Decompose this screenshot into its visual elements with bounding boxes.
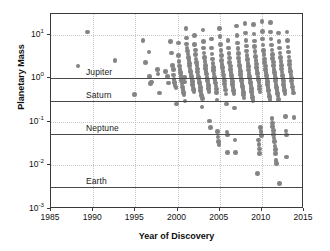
x-axis-tick-label: 2000: [167, 212, 186, 222]
reference-line-label-jupiter: Jupiter: [86, 67, 112, 77]
data-point: [269, 37, 274, 42]
y-axis-tick-label: 10-3: [10, 203, 44, 213]
data-point: [163, 69, 168, 74]
reference-line-neptune: [51, 134, 302, 135]
data-point: [85, 30, 90, 35]
data-point: [143, 60, 148, 65]
y-axis-tick: [47, 121, 50, 122]
x-axis-tick-label: 2005: [209, 212, 228, 222]
data-point: [235, 41, 240, 46]
data-point: [157, 91, 162, 96]
data-point: [219, 48, 224, 53]
data-point: [233, 138, 238, 143]
data-point: [260, 29, 265, 34]
data-point: [283, 114, 288, 119]
data-point: [274, 161, 279, 166]
data-point: [243, 21, 248, 26]
data-point: [147, 50, 152, 55]
y-axis-tick-label: 10-2: [10, 159, 44, 169]
data-point: [286, 50, 291, 55]
data-point: [261, 43, 266, 48]
data-point: [217, 26, 222, 31]
data-point: [285, 30, 290, 35]
data-point: [292, 115, 297, 120]
reference-line-jupiter: [51, 78, 302, 79]
data-point: [174, 102, 179, 107]
data-point: [209, 46, 214, 51]
data-point: [226, 46, 231, 51]
x-axis-tick-label: 1990: [83, 212, 102, 222]
data-point: [168, 39, 173, 44]
data-point: [201, 39, 206, 44]
data-point: [218, 42, 223, 47]
x-axis-tick: [134, 208, 135, 211]
x-axis-tick: [92, 208, 93, 211]
x-axis-tick: [50, 208, 51, 211]
data-point: [236, 46, 241, 51]
data-point: [251, 22, 256, 27]
y-axis-tick: [47, 77, 50, 78]
data-point: [283, 91, 288, 96]
data-point: [255, 171, 260, 176]
gridline-horizontal: [51, 165, 302, 166]
data-point: [260, 19, 265, 24]
data-point: [235, 33, 240, 38]
data-point: [244, 44, 249, 49]
gridline-vertical: [135, 14, 136, 207]
data-point: [209, 37, 214, 42]
data-point: [217, 142, 222, 147]
x-axis-tick-label: 1985: [41, 212, 60, 222]
data-point: [273, 151, 278, 156]
data-point: [226, 38, 231, 43]
data-point: [169, 51, 174, 56]
reference-line-earth: [51, 187, 302, 188]
data-point: [192, 89, 197, 94]
data-point: [182, 92, 187, 97]
data-point: [224, 102, 229, 107]
data-point: [285, 38, 290, 43]
data-point: [166, 81, 171, 86]
x-axis-tick-label: 1995: [125, 212, 144, 222]
data-point: [207, 119, 212, 124]
reference-line-label-earth: Earth: [86, 176, 107, 186]
x-axis-tick: [219, 208, 220, 211]
data-point: [207, 89, 212, 94]
data-point: [184, 36, 189, 41]
data-point: [176, 41, 181, 46]
exoplanet-mass-scatter-chart: JupiterSaturnNeptuneEarth 19851990199520…: [0, 0, 330, 251]
data-point: [244, 38, 249, 43]
y-axis-tick: [47, 208, 50, 209]
plot-area: JupiterSaturnNeptuneEarth: [50, 13, 303, 208]
y-axis-tick: [47, 164, 50, 165]
data-point: [192, 33, 197, 38]
data-point: [184, 26, 189, 31]
data-point: [269, 43, 274, 48]
data-point: [132, 92, 137, 97]
data-point: [182, 80, 187, 85]
data-point: [242, 96, 247, 101]
data-point: [268, 30, 273, 35]
data-point: [233, 150, 238, 155]
data-point: [243, 31, 248, 36]
data-point: [257, 151, 262, 156]
data-point: [234, 24, 239, 29]
data-point: [224, 92, 229, 97]
x-axis-tick: [177, 208, 178, 211]
data-point: [201, 46, 206, 51]
data-point: [225, 150, 230, 155]
data-point: [291, 91, 296, 96]
reference-line-label-saturn: Saturn: [86, 90, 112, 100]
data-point: [156, 72, 161, 77]
reference-line-label-neptune: Neptune: [86, 123, 119, 133]
data-point: [218, 34, 223, 39]
x-axis-tick-label: 2015: [294, 212, 313, 222]
reference-line-saturn: [51, 101, 302, 102]
data-point: [214, 90, 219, 95]
data-point: [210, 52, 215, 57]
gridline-horizontal: [51, 35, 302, 36]
data-point: [176, 53, 181, 58]
data-point: [232, 106, 237, 111]
x-axis-tick-label: 2010: [251, 212, 270, 222]
data-point: [260, 37, 265, 42]
data-point: [201, 28, 206, 33]
